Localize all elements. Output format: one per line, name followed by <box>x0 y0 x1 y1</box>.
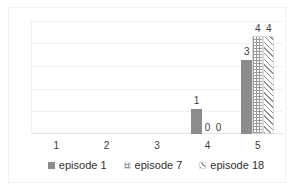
bar-group-3 <box>132 21 182 134</box>
legend-item-episode-1[interactable]: episode 1 <box>48 160 107 171</box>
bar-slot-episode-18: 0 <box>213 21 224 134</box>
x-tick-label: 3 <box>132 136 182 156</box>
bar-slot-episode-7 <box>51 21 62 134</box>
x-tick-label: 4 <box>182 136 232 156</box>
bar-slot-episode-1: 1 <box>191 21 202 134</box>
bar-value-label: 0 <box>205 123 211 133</box>
bar-value-label: 1 <box>194 96 200 106</box>
legend-swatch-icon <box>48 162 55 169</box>
bar-slot-episode-7 <box>152 21 163 134</box>
bar-slot-episode-7 <box>101 21 112 134</box>
x-tick-label: 2 <box>81 136 131 156</box>
bar-groups: 1 0 0 3 4 <box>31 21 283 134</box>
legend-swatch-icon <box>199 162 206 169</box>
bar-slot-episode-7: 4 <box>252 21 263 134</box>
bar-value-label: 4 <box>266 24 272 34</box>
bar-slot-episode-18 <box>112 21 123 134</box>
bar-value-label: 0 <box>216 123 222 133</box>
bar-group-2 <box>81 21 131 134</box>
bar-episode-1[interactable]: 3 <box>241 60 252 134</box>
legend-item-episode-7[interactable]: episode 7 <box>124 160 183 171</box>
bar-episode-7[interactable]: 4 <box>252 36 263 134</box>
bar-group-4: 1 0 0 <box>182 21 232 134</box>
bar-slot-episode-18: 4 <box>263 21 274 134</box>
legend-label: episode 1 <box>59 160 107 171</box>
bar-slot-episode-1 <box>40 21 51 134</box>
legend-swatch-icon <box>124 162 131 169</box>
bar-value-label: 4 <box>255 24 261 34</box>
chart-legend: episode 1 episode 7 episode 18 <box>17 160 294 171</box>
bar-slot-episode-18 <box>62 21 73 134</box>
bar-group-1 <box>31 21 81 134</box>
bar-slot-episode-1: 3 <box>241 21 252 134</box>
bar-slot-episode-1 <box>141 21 152 134</box>
x-tick-label: 5 <box>233 136 283 156</box>
bar-group-5: 3 4 4 <box>233 21 283 134</box>
bar-value-label: 3 <box>244 47 250 57</box>
bar-slot-episode-18 <box>163 21 174 134</box>
legend-item-episode-18[interactable]: episode 18 <box>199 160 264 171</box>
chart-frame: 1 0 0 3 4 <box>8 7 286 183</box>
x-tick-label: 1 <box>31 136 81 156</box>
bar-slot-episode-7: 0 <box>202 21 213 134</box>
bar-episode-1[interactable]: 1 <box>191 109 202 134</box>
bar-slot-episode-1 <box>90 21 101 134</box>
x-axis-tick-labels: 1 2 3 4 5 <box>31 136 283 156</box>
bar-episode-18[interactable]: 4 <box>263 36 274 134</box>
legend-label: episode 18 <box>210 160 264 171</box>
legend-label: episode 7 <box>135 160 183 171</box>
bar-chart: 1 0 0 3 4 <box>0 0 294 195</box>
